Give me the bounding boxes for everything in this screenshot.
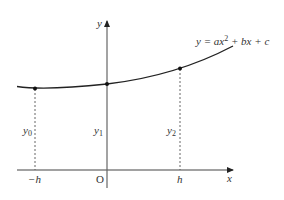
ordinate-label-y0: y0 bbox=[22, 124, 32, 138]
tick-neg-h: −h bbox=[28, 173, 41, 185]
point-zero bbox=[105, 82, 109, 86]
x-axis-label: x bbox=[226, 172, 232, 184]
point-pos-h bbox=[178, 67, 182, 71]
parabola-diagram: y x O −h h y0 y1 y2 y = ax2 + bx + c bbox=[0, 0, 284, 200]
ordinate-label-y2: y2 bbox=[166, 124, 176, 138]
y-axis-label: y bbox=[96, 17, 102, 29]
parabola-curve bbox=[17, 46, 233, 88]
ordinate-label-y1: y1 bbox=[93, 124, 103, 138]
point-neg-h bbox=[33, 87, 37, 91]
equation-label: y = ax2 + bx + c bbox=[195, 34, 269, 47]
tick-pos-h: h bbox=[177, 173, 183, 185]
origin-label: O bbox=[96, 173, 104, 185]
